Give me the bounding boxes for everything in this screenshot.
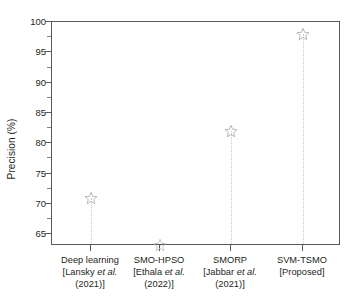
y-tick-label-75: 75 (6, 167, 46, 178)
x-category-line2: [Proposed] (250, 266, 354, 278)
x-category-line3: (2021)] (178, 278, 282, 290)
x-tick-mark-0 (90, 245, 91, 251)
stem-line-deep-learning (91, 198, 92, 244)
data-point-smorp[interactable] (224, 125, 237, 138)
stem-line-smorp (231, 131, 232, 244)
precision-comparison-chart: Precision (%) 100 95 90 85 80 75 70 65 (0, 0, 359, 298)
data-point-deep-learning[interactable] (84, 191, 97, 204)
x-category-line1: SVM-TSMO (250, 254, 354, 266)
plot-area (51, 21, 340, 245)
x-category-label-svm-tsmo: SVM-TSMO [Proposed] (250, 254, 354, 278)
y-tick-label-100: 100 (6, 16, 46, 27)
y-axis-title: Precision (%) (0, 0, 22, 298)
y-tick-label-80: 80 (6, 137, 46, 148)
y-tick-label-85: 85 (6, 106, 46, 117)
data-point-svm-tsmo[interactable] (296, 28, 309, 41)
x-tick-mark-2 (230, 245, 231, 251)
plot-inner (52, 22, 339, 244)
y-tick-label-90: 90 (6, 76, 46, 87)
y-tick-label-95: 95 (6, 46, 46, 57)
y-tick-label-70: 70 (6, 197, 46, 208)
data-point-smo-hpso[interactable] (153, 239, 166, 252)
x-tick-mark-3 (302, 245, 303, 251)
stem-line-svm-tsmo (303, 34, 304, 244)
y-tick-label-65: 65 (6, 228, 46, 239)
